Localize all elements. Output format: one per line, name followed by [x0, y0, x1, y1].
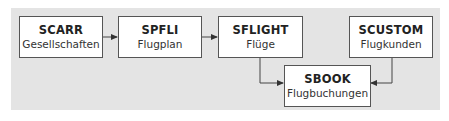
node-scustom-title: SCUSTOM	[350, 23, 432, 37]
node-scarr-subtitle: Gesellschaften	[20, 37, 102, 51]
node-sbook-title: SBOOK	[285, 72, 370, 86]
node-sbook: SBOOK Flugbuchungen	[284, 65, 371, 107]
node-scustom: SCUSTOM Flugkunden	[349, 16, 433, 58]
node-sflight-subtitle: Flüge	[219, 37, 302, 51]
arrow-sflight-to-sbook	[260, 57, 283, 83]
node-spfli-title: SPFLI	[119, 23, 201, 37]
node-sflight: SFLIGHT Flüge	[218, 16, 303, 58]
node-scarr: SCARR Gesellschaften	[19, 16, 103, 58]
node-sbook-subtitle: Flugbuchungen	[285, 86, 370, 100]
node-scustom-subtitle: Flugkunden	[350, 37, 432, 51]
node-spfli-subtitle: Flugplan	[119, 37, 201, 51]
node-spfli: SPFLI Flugplan	[118, 16, 202, 58]
node-sflight-title: SFLIGHT	[219, 23, 302, 37]
arrow-scustom-to-sbook	[371, 57, 392, 83]
node-scarr-title: SCARR	[20, 23, 102, 37]
